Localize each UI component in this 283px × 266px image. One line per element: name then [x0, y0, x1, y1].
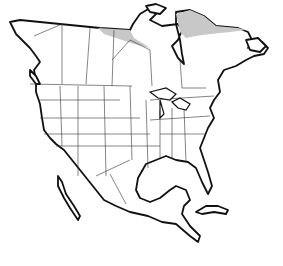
baja-california — [58, 176, 80, 220]
newfoundland — [246, 38, 266, 52]
north-america-map — [0, 0, 283, 266]
cuba — [196, 206, 228, 214]
